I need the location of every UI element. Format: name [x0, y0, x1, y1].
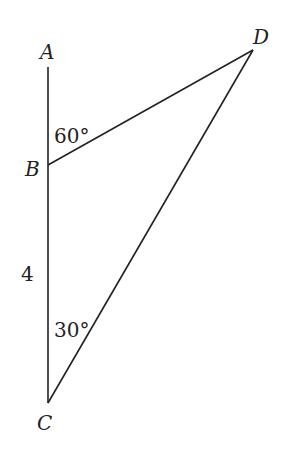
point-label-c: C [37, 411, 52, 435]
length-label-bc: 4 [21, 262, 34, 286]
geometry-diagram: A D B C 60° 30° 4 [0, 0, 286, 452]
point-label-a: A [38, 40, 54, 64]
angle-label-c: 30° [54, 318, 89, 342]
point-label-b: B [24, 157, 40, 181]
point-label-d: D [252, 25, 269, 49]
segment-CD [48, 50, 253, 403]
angle-label-b: 60° [54, 124, 89, 148]
